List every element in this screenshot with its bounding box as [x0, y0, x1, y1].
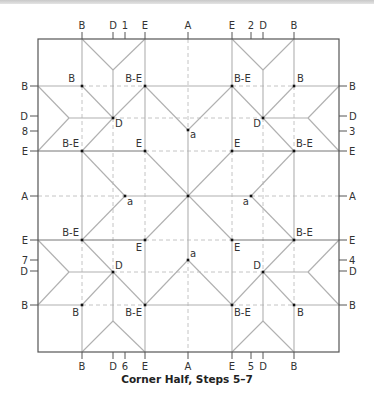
reference-point-dot [81, 304, 84, 307]
point-label: B [297, 307, 304, 318]
right-edge-label: A [349, 191, 356, 202]
mountain-fold-line [263, 39, 294, 70]
mountain-fold-line [232, 272, 263, 305]
point-label: a [243, 196, 249, 207]
point-label: B-E [125, 73, 142, 84]
point-label: D [115, 260, 123, 271]
mountain-fold-line [82, 151, 125, 196]
point-label: B-E [296, 227, 313, 238]
bottom-edge-label: D [259, 361, 267, 372]
right-edge-label: B [349, 81, 356, 92]
left-edge-label: B [21, 300, 28, 311]
mountain-fold-line [82, 272, 113, 305]
reference-point-dot [231, 239, 234, 242]
point-label: B [72, 307, 79, 318]
point-label: a [190, 129, 196, 140]
point-label: E [136, 242, 142, 253]
reference-point-dot [231, 85, 234, 88]
top-edge-label: B [291, 20, 298, 31]
point-label: B-E [62, 227, 79, 238]
reference-point-dot [144, 85, 147, 88]
point-label: a [190, 248, 196, 259]
point-label: D [253, 260, 261, 271]
top-edge-label: B [79, 20, 86, 31]
mountain-fold-line [263, 321, 294, 352]
right-edge-label: B [349, 300, 356, 311]
reference-point-dot [187, 259, 190, 262]
mountain-fold-line [82, 196, 125, 240]
mountain-fold-line [38, 86, 69, 118]
bottom-edge-label: E [142, 361, 148, 372]
mountain-fold-line [113, 39, 145, 70]
reference-point-dot [81, 150, 84, 153]
crease-pattern-diagram: BD1EAE2DBBD6EAE5DBBD8EAE7DBBD3EAE4DB BB-… [0, 0, 374, 403]
point-label: B-E [234, 307, 251, 318]
top-edge-label: 2 [248, 20, 254, 31]
reference-point-dot [250, 195, 253, 198]
point-label: B-E [296, 138, 313, 149]
reference-point-dot [293, 85, 296, 88]
bottom-edge-label: D [109, 361, 117, 372]
mountain-fold-line [145, 86, 188, 130]
left-edge-label: D [20, 266, 28, 277]
reference-point-dot [262, 117, 265, 120]
reference-point-dot [144, 150, 147, 153]
mountain-fold-line [38, 272, 69, 305]
point-label: a [127, 196, 133, 207]
right-edge-label: D [349, 111, 357, 122]
mountain-fold-line [308, 240, 339, 272]
mountain-fold-line [251, 196, 294, 240]
left-edge-label: B [21, 81, 28, 92]
bottom-edge-label: E [229, 361, 235, 372]
mountain-fold-line [113, 86, 145, 118]
mountain-fold-line [82, 321, 113, 352]
top-edge-label: 1 [122, 20, 128, 31]
top-edge-label: A [185, 20, 192, 31]
right-edge-label: 3 [349, 126, 355, 137]
left-edge-label: E [22, 146, 28, 157]
top-edge-label: E [229, 20, 235, 31]
point-label: D [253, 118, 261, 129]
mountain-fold-line [145, 260, 188, 305]
point-label: D [115, 118, 123, 129]
mountain-fold-line [232, 86, 263, 118]
point-label: B-E [125, 307, 142, 318]
point-label: B-E [234, 73, 251, 84]
left-edge-label: 8 [22, 126, 28, 137]
bottom-edge-label: A [185, 361, 192, 372]
point-label: E [234, 242, 240, 253]
top-edge-label: D [259, 20, 267, 31]
mountain-fold-line [232, 39, 263, 70]
bottom-edge-label: B [79, 361, 86, 372]
left-edge-label: A [21, 191, 28, 202]
right-edge-label: D [349, 266, 357, 277]
bottom-edge-label: B [291, 361, 298, 372]
reference-point-dot [144, 239, 147, 242]
reference-point-dot [293, 239, 296, 242]
mountain-fold-line [82, 118, 113, 151]
mountain-fold-line [263, 272, 294, 305]
top-edge-label: D [109, 20, 117, 31]
mountain-fold-line [263, 86, 294, 118]
mountain-fold-line [232, 321, 263, 352]
reference-point-dot [112, 271, 115, 274]
bottom-edge-label: 5 [248, 361, 254, 372]
point-label: B [297, 73, 304, 84]
mountain-fold-line [113, 321, 145, 352]
right-edge-label: E [349, 146, 355, 157]
mountain-fold-line [113, 272, 145, 305]
mountain-fold-line [308, 272, 339, 305]
point-label: B-E [62, 138, 79, 149]
mountain-fold-line [308, 86, 339, 118]
top-edge-label: E [142, 20, 148, 31]
reference-point-dot [144, 304, 147, 307]
reference-point-dot [112, 117, 115, 120]
reference-point-dot [293, 304, 296, 307]
mountain-fold-line [82, 240, 113, 272]
reference-point-dot [124, 195, 127, 198]
mountain-fold-line [188, 260, 232, 305]
mountain-fold-line [38, 240, 69, 272]
mountain-fold-line [251, 151, 294, 196]
reference-point-dot [231, 150, 234, 153]
point-label: E [136, 138, 142, 149]
